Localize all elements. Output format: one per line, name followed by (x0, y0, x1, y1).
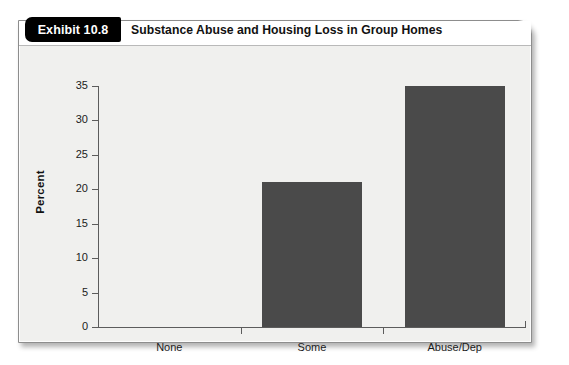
x-axis-category-label: None (98, 342, 241, 353)
y-axis-title: Percent (34, 157, 46, 227)
exhibit-title: Substance Abuse and Housing Loss in Grou… (131, 17, 442, 42)
x-axis-category-label: Abuse/Dep (383, 342, 526, 353)
frame-inner: Exhibit 10.8 Substance Abuse and Housing… (19, 21, 531, 342)
exhibit-figure: Exhibit 10.8 Substance Abuse and Housing… (0, 0, 569, 365)
y-axis-tick-label: 15 (50, 218, 88, 229)
exhibit-frame: Exhibit 10.8 Substance Abuse and Housing… (18, 20, 532, 343)
exhibit-header: Exhibit 10.8 Substance Abuse and Housing… (19, 21, 531, 49)
y-axis-tick-label: 20 (50, 183, 88, 194)
x-axis-line (98, 327, 526, 328)
y-axis-tick (92, 327, 98, 328)
y-axis-tick-label: 30 (50, 114, 88, 125)
y-axis-tick-label: 25 (50, 149, 88, 160)
x-axis-tick (241, 327, 242, 334)
y-axis-line (98, 86, 99, 327)
chart-plot-area: Percent 05101520253035 NoneSomeAbuse/Dep (20, 46, 530, 341)
y-axis-tick-label: 5 (50, 287, 88, 298)
y-axis-tick (92, 120, 98, 121)
x-axis-endcap (525, 321, 526, 328)
y-axis-tick (92, 155, 98, 156)
y-axis-tick-label: 10 (50, 252, 88, 263)
y-axis-tick-label: 0 (50, 321, 88, 332)
y-axis-tick (92, 86, 98, 87)
bar-some (262, 182, 362, 327)
y-axis-tick (92, 189, 98, 190)
y-axis-tick (92, 293, 98, 294)
x-axis-tick (383, 327, 384, 334)
y-axis-tick (92, 224, 98, 225)
y-axis-tick-label: 35 (50, 80, 88, 91)
y-axis-tick (92, 258, 98, 259)
x-axis-category-label: Some (241, 342, 384, 353)
exhibit-number-tab: Exhibit 10.8 (25, 17, 121, 42)
bar-abuse-dep (405, 86, 505, 327)
